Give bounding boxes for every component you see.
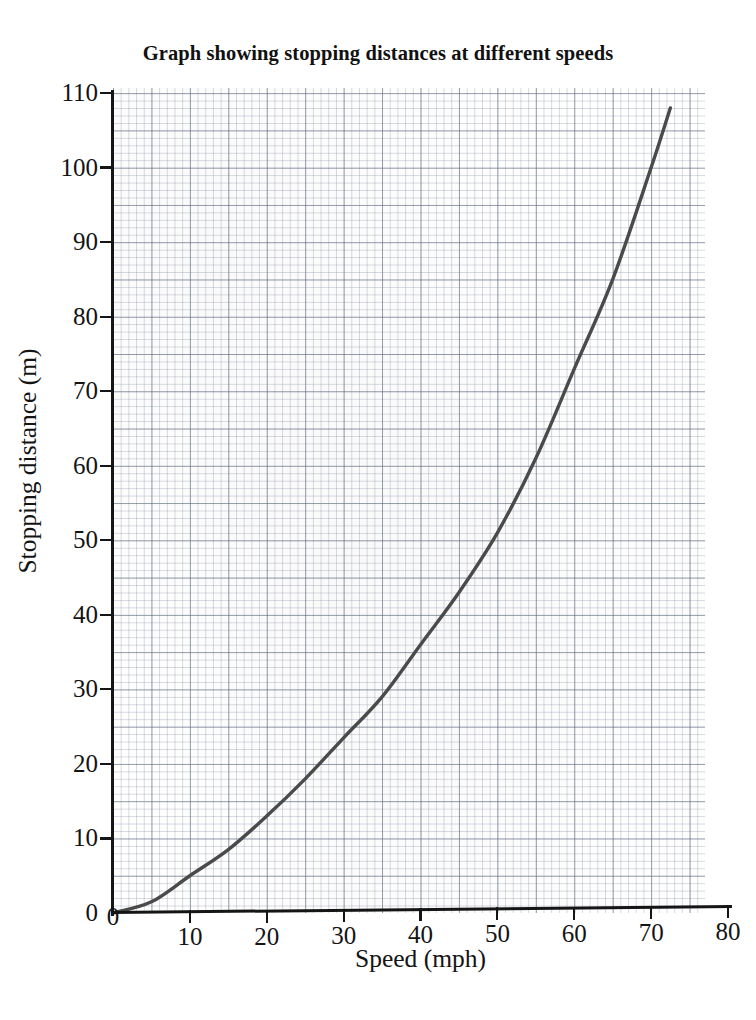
x-tick-20	[266, 910, 268, 923]
y-tick-label-110: 110	[30, 80, 98, 105]
y-axis-title: Stopping distance (m)	[13, 211, 43, 711]
y-tick-20	[100, 763, 112, 765]
x-tick-40	[419, 908, 421, 921]
y-tick-100	[100, 166, 112, 168]
x-tick-10	[189, 910, 191, 923]
y-tick-label-10: 10	[30, 825, 98, 850]
curve-layer	[113, 88, 705, 913]
y-tick-label-20: 20	[30, 751, 98, 776]
y-tick-60	[100, 465, 112, 467]
x-axis-title: Speed (mph)	[113, 944, 728, 974]
y-tick-50	[100, 539, 112, 541]
x-tick-30	[343, 909, 345, 922]
x-tick-label-0: 0	[83, 904, 143, 929]
x-tick-70	[650, 906, 652, 919]
x-tick-50	[496, 907, 498, 920]
y-axis-line	[111, 90, 114, 916]
y-tick-10	[100, 837, 112, 839]
x-tick-80	[727, 905, 729, 918]
y-tick-90	[100, 241, 112, 243]
x-tick-label-60: 60	[544, 921, 604, 946]
y-tick-30	[100, 688, 112, 690]
x-tick-label-80: 80	[698, 919, 756, 944]
y-tick-label-100: 100	[30, 155, 98, 180]
x-tick-label-50: 50	[467, 921, 527, 946]
plot-area	[113, 88, 705, 913]
x-tick-60	[573, 907, 575, 920]
chart-title: Graph showing stopping distances at diff…	[0, 42, 756, 65]
stopping-distance-figure: Graph showing stopping distances at diff…	[0, 0, 756, 1020]
y-tick-70	[100, 390, 112, 392]
stopping-distance-curve	[113, 108, 670, 913]
y-tick-110	[100, 92, 112, 94]
x-tick-label-70: 70	[621, 920, 681, 945]
y-tick-40	[100, 614, 112, 616]
y-tick-80	[100, 316, 112, 318]
